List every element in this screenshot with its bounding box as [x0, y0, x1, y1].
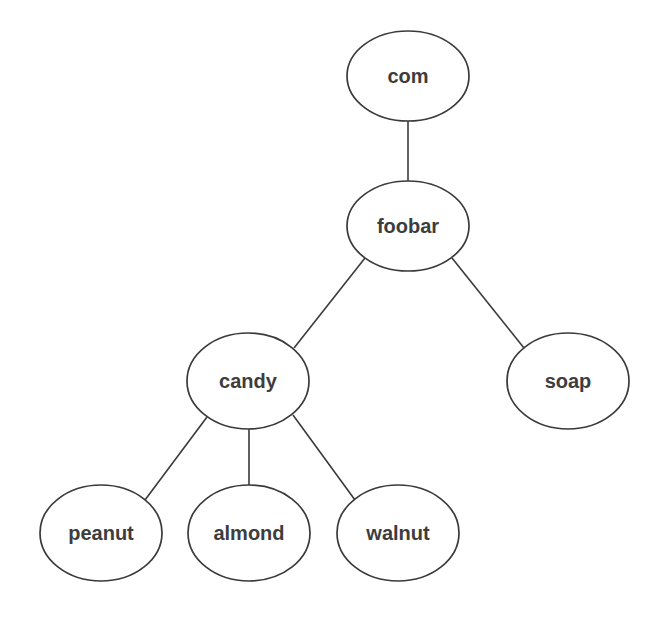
- edges-group: [145, 121, 524, 500]
- tree-diagram: comfoobarcandysoappeanutalmondwalnut: [0, 0, 658, 622]
- edge-foobar-soap: [452, 258, 524, 348]
- node-com: com: [347, 31, 469, 121]
- node-walnut: walnut: [337, 485, 459, 581]
- node-label: peanut: [68, 522, 134, 544]
- node-label: com: [387, 65, 428, 87]
- edge-candy-peanut: [145, 417, 207, 500]
- node-label: almond: [213, 522, 284, 544]
- node-label: foobar: [377, 215, 439, 237]
- node-peanut: peanut: [40, 485, 162, 581]
- nodes-group: comfoobarcandysoappeanutalmondwalnut: [40, 31, 629, 581]
- node-soap: soap: [507, 333, 629, 429]
- edge-foobar-candy: [294, 258, 365, 348]
- node-label: candy: [219, 370, 278, 392]
- node-candy: candy: [187, 333, 309, 429]
- node-label: soap: [545, 370, 592, 392]
- node-foobar: foobar: [347, 181, 469, 271]
- node-label: walnut: [365, 522, 430, 544]
- node-almond: almond: [188, 485, 310, 581]
- edge-candy-walnut: [293, 415, 355, 500]
